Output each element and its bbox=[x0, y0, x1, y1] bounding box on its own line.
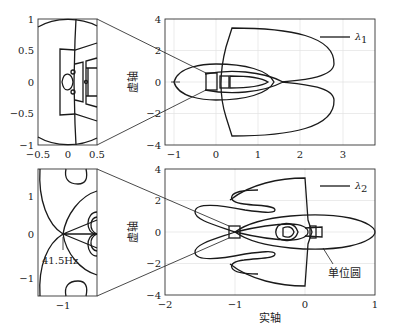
svg-text:−1: −1 bbox=[167, 149, 182, 160]
svg-text:0: 0 bbox=[65, 149, 71, 160]
freq-annotation: 41.5Hz bbox=[42, 255, 78, 266]
svg-text:4: 4 bbox=[155, 14, 161, 25]
bottom-xlabel: 实轴 bbox=[259, 311, 281, 325]
bottom-inset-axes: 41.5Hz −1 1 0 −1 bbox=[19, 169, 97, 311]
bottom-inset-yticks: 1 0 −1 bbox=[19, 191, 34, 284]
svg-text:3: 3 bbox=[340, 149, 346, 160]
top-main-yticks: 4 2 0 −2 −4 bbox=[146, 14, 161, 151]
svg-text:1: 1 bbox=[372, 299, 378, 310]
svg-text:4: 4 bbox=[155, 164, 161, 175]
svg-text:0.5: 0.5 bbox=[18, 45, 34, 56]
svg-text:0: 0 bbox=[155, 227, 161, 238]
svg-text:−1: −1 bbox=[19, 140, 34, 151]
top-inset-xticks: −0.5 0 0.5 bbox=[26, 149, 105, 160]
svg-text:−2: −2 bbox=[146, 258, 161, 269]
svg-text:0: 0 bbox=[302, 299, 308, 310]
svg-text:1: 1 bbox=[28, 14, 34, 25]
svg-text:2: 2 bbox=[361, 183, 367, 194]
bottom-main-yticks: 4 2 0 −2 −4 bbox=[146, 164, 161, 301]
top-main-xticks: −1 0 1 2 3 bbox=[167, 149, 347, 160]
svg-text:−1: −1 bbox=[56, 300, 71, 311]
svg-text:−1: −1 bbox=[228, 299, 243, 310]
svg-text:−4: −4 bbox=[146, 290, 161, 301]
unit-circle-label: 单位圆 bbox=[328, 266, 361, 280]
svg-text:−0.5: −0.5 bbox=[10, 108, 34, 119]
top-inset-axes: −0.5 0 0.5 1 0.5 0 −0.5 −1 bbox=[10, 14, 105, 160]
svg-text:0: 0 bbox=[28, 229, 34, 240]
bottom-inset-xticks: −1 bbox=[56, 300, 71, 311]
svg-text:0: 0 bbox=[213, 149, 219, 160]
svg-text:1: 1 bbox=[28, 191, 34, 202]
top-inset-yticks: 1 0.5 0 −0.5 −1 bbox=[10, 14, 34, 151]
svg-text:1: 1 bbox=[361, 34, 367, 45]
bottom-main-xticks: −2 −1 0 1 bbox=[158, 299, 379, 310]
top-ylabel: 虚轴 bbox=[126, 71, 140, 93]
svg-text:2: 2 bbox=[297, 149, 303, 160]
svg-text:0.5: 0.5 bbox=[89, 149, 105, 160]
top-main-axes: −1 0 1 2 3 4 2 0 −2 −4 λ 1 虚轴 bbox=[126, 14, 375, 160]
svg-text:0: 0 bbox=[28, 77, 34, 88]
svg-text:−1: −1 bbox=[19, 273, 34, 284]
bottom-main-axes: 单位圆 −2 −1 0 1 4 2 0 −2 −4 λ 2 虚轴 实轴 bbox=[126, 164, 378, 325]
svg-text:−4: −4 bbox=[146, 140, 161, 151]
figure: −1 0 1 2 3 4 2 0 −2 −4 λ 1 虚轴 bbox=[0, 0, 393, 334]
bottom-ylabel: 虚轴 bbox=[126, 221, 140, 243]
svg-text:0: 0 bbox=[155, 77, 161, 88]
svg-text:1: 1 bbox=[255, 149, 261, 160]
